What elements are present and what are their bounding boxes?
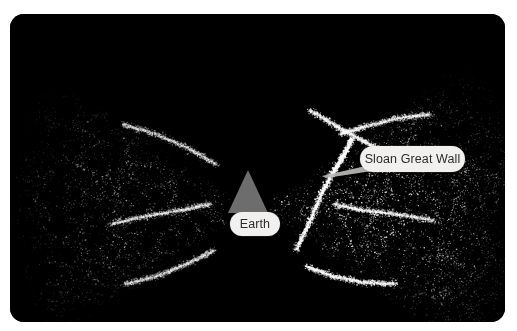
map-label-sloan-great-wall-text: Sloan Great Wall (365, 153, 461, 166)
map-label-earth[interactable]: Earth (230, 212, 280, 236)
sky-survey-panel: Earth Sloan Great Wall (10, 14, 505, 322)
figure-stage: Earth Sloan Great Wall (0, 0, 517, 331)
map-label-sloan-great-wall[interactable]: Sloan Great Wall (360, 146, 465, 172)
map-label-earth-text: Earth (240, 218, 270, 231)
